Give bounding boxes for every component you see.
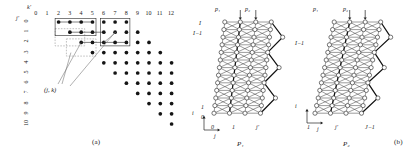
mesh-node	[323, 66, 327, 70]
mesh-node	[358, 43, 362, 47]
mesh-node	[327, 43, 331, 47]
mesh-node	[251, 43, 255, 47]
mesh-node	[269, 20, 273, 24]
panel-a-leader-line	[58, 42, 81, 84]
panel-a-lattice-point	[158, 81, 162, 85]
panel-a-lattice-point	[170, 112, 174, 116]
panel-a-lattice-point	[147, 92, 151, 96]
mesh-node	[377, 28, 381, 32]
panel-a-lattice-point	[147, 81, 151, 85]
mesh-node	[340, 58, 344, 62]
array-p1: p₁ p₂ I I−1 1 0 0 1 j' i j P₁	[190, 0, 295, 156]
mesh-node	[232, 73, 236, 77]
array-p2-name-label: P₂	[343, 140, 350, 148]
mesh-node	[216, 73, 220, 77]
mesh-node	[230, 88, 234, 92]
panel-a-lattice-point	[125, 30, 129, 34]
panel-a-lattice-point	[158, 71, 162, 75]
mesh-node	[346, 104, 350, 108]
array-p2-top-label-1: p₂	[343, 6, 348, 12]
array-p2-bottom-label-1: j'	[335, 124, 338, 130]
mesh-node	[219, 50, 223, 54]
array-p2-axis-j: j	[317, 126, 319, 132]
array-p1-top-label-0: p₁	[215, 6, 220, 12]
mesh-input-arrowhead	[348, 17, 351, 19]
mesh-node	[245, 96, 249, 100]
mesh-node	[266, 50, 270, 54]
array-p1-left-label-0: I	[199, 20, 201, 26]
mesh-node	[229, 96, 233, 100]
panel-a-lattice-point	[170, 71, 174, 75]
mesh-node	[315, 104, 319, 108]
panel-a-lattice-point	[68, 20, 72, 24]
array-p1-bottom-label-2: j'	[256, 124, 259, 130]
mesh-node	[264, 66, 268, 70]
array-p2: p₁ p₂ I−1 1 j' J−1 i j P₂ (b)	[293, 0, 407, 156]
mesh-node	[213, 104, 217, 108]
array-p1-bottom-label-0: 0	[211, 124, 214, 130]
mesh-node	[336, 73, 340, 77]
array-p2-top-label-0: p₁	[313, 6, 318, 12]
mesh-node	[324, 58, 328, 62]
mesh-node	[236, 43, 240, 47]
panel-a-lattice-point	[136, 51, 140, 55]
mesh-node	[260, 96, 264, 100]
mesh-chain-node	[281, 35, 285, 39]
panel-a-lattice-point	[125, 51, 129, 55]
panel-a-lattice-point	[102, 61, 106, 65]
mesh-node	[250, 50, 254, 54]
mesh-node	[215, 88, 219, 92]
mesh-node	[231, 81, 235, 85]
mesh-node	[374, 43, 378, 47]
mesh-node	[212, 111, 216, 115]
mesh-node	[357, 50, 361, 54]
mesh-node	[259, 104, 263, 108]
mesh-node	[247, 81, 251, 85]
panel-a-lattice-point	[158, 92, 162, 96]
panel-a-lattice-point	[147, 51, 151, 55]
mesh-node	[343, 43, 347, 47]
mesh-node	[268, 28, 272, 32]
panel-a-lattice-point	[136, 71, 140, 75]
panel-a-lattice-point	[125, 71, 129, 75]
panel-a-lattice-point	[102, 20, 106, 24]
panel-a-leader-line	[70, 32, 115, 86]
mesh-node	[235, 50, 239, 54]
mesh-node	[331, 28, 335, 32]
array-p1-top-label-1: p₂	[245, 6, 250, 12]
panel-a-lattice-point	[170, 92, 174, 96]
panel-a-caption: (a)	[92, 138, 100, 146]
mesh-chain-node	[389, 35, 393, 39]
panel-a-lattice-point	[113, 61, 117, 65]
mesh-node	[228, 104, 232, 108]
mesh-node	[234, 58, 238, 62]
mesh-node	[364, 88, 368, 92]
axis-i-arrowhead	[305, 109, 308, 112]
panel-b-caption: (b)	[394, 138, 403, 146]
mesh-chain-node	[277, 66, 281, 70]
mesh-node	[344, 111, 348, 115]
mesh-node	[222, 28, 226, 32]
panel-a-lattice-point	[91, 30, 95, 34]
panel-a-lattice-point	[113, 41, 117, 45]
panel-a-lattice-point	[113, 20, 117, 24]
mesh-node	[247, 73, 251, 77]
mesh-node	[237, 28, 241, 32]
panel-a-lattice-point	[147, 41, 151, 45]
panel-a-lattice	[0, 0, 190, 140]
mesh-node	[321, 73, 325, 77]
mesh-node	[367, 73, 371, 77]
mesh-node	[223, 20, 227, 24]
mesh-node	[363, 96, 367, 100]
mesh-node	[362, 28, 366, 32]
array-p1-axis-j: j	[214, 133, 216, 139]
panel-a-lattice-point	[113, 51, 117, 55]
panel-a-lattice-point	[170, 122, 174, 126]
mesh-node	[346, 28, 350, 32]
mesh-node	[267, 35, 271, 39]
mesh-node	[332, 20, 336, 24]
mesh-node	[335, 81, 339, 85]
mesh-node	[252, 35, 256, 39]
mesh-node	[372, 50, 376, 54]
panel-a-lattice-point	[68, 30, 72, 34]
